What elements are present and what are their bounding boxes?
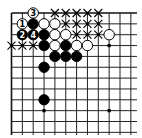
white-stone[interactable] <box>71 40 81 50</box>
star-point-icon <box>108 109 111 112</box>
white-stone-3[interactable]: 3 <box>28 8 38 18</box>
white-stone[interactable] <box>61 29 71 39</box>
black-stone-icon <box>50 51 60 61</box>
star-point-icon <box>108 44 111 47</box>
black-stone-2[interactable]: 2 <box>17 29 27 39</box>
white-stone[interactable] <box>104 29 114 39</box>
white-stone[interactable] <box>50 19 60 29</box>
white-stone-icon <box>50 19 60 29</box>
black-stone[interactable] <box>61 40 71 50</box>
black-stone-icon <box>28 19 38 29</box>
black-stone[interactable] <box>61 51 71 61</box>
move-number-label: 3 <box>30 9 36 18</box>
black-stone-4[interactable]: 4 <box>28 29 38 39</box>
move-number-label: 2 <box>20 31 26 40</box>
black-stone-icon <box>39 29 49 39</box>
black-stone-icon <box>39 40 49 50</box>
black-stone[interactable] <box>71 51 81 61</box>
black-stone[interactable] <box>39 40 49 50</box>
move-number-label: 1 <box>20 20 26 29</box>
black-stone[interactable] <box>39 29 49 39</box>
black-stone[interactable] <box>50 51 60 61</box>
move-number-label: 4 <box>30 31 36 40</box>
white-stone[interactable] <box>82 40 92 50</box>
black-stone-icon <box>61 51 71 61</box>
white-stone[interactable] <box>50 40 60 50</box>
white-stone-icon <box>39 19 49 29</box>
white-stone-icon <box>82 40 92 50</box>
white-stone-icon <box>50 29 60 39</box>
black-stone-icon <box>61 40 71 50</box>
go-board[interactable]: 3124 <box>0 0 142 138</box>
black-stone[interactable] <box>39 95 49 105</box>
white-stone-icon <box>71 40 81 50</box>
black-stone[interactable] <box>28 19 38 29</box>
black-stone[interactable] <box>39 62 49 72</box>
white-stone-1[interactable]: 1 <box>17 19 27 29</box>
white-stone-icon <box>61 29 71 39</box>
white-stone[interactable] <box>39 19 49 29</box>
white-stone-icon <box>50 40 60 50</box>
black-stone-icon <box>39 62 49 72</box>
black-stone-icon <box>71 51 81 61</box>
white-stone-icon <box>104 29 114 39</box>
black-stone-icon <box>39 95 49 105</box>
star-point-icon <box>42 109 45 112</box>
white-stone[interactable] <box>50 29 60 39</box>
